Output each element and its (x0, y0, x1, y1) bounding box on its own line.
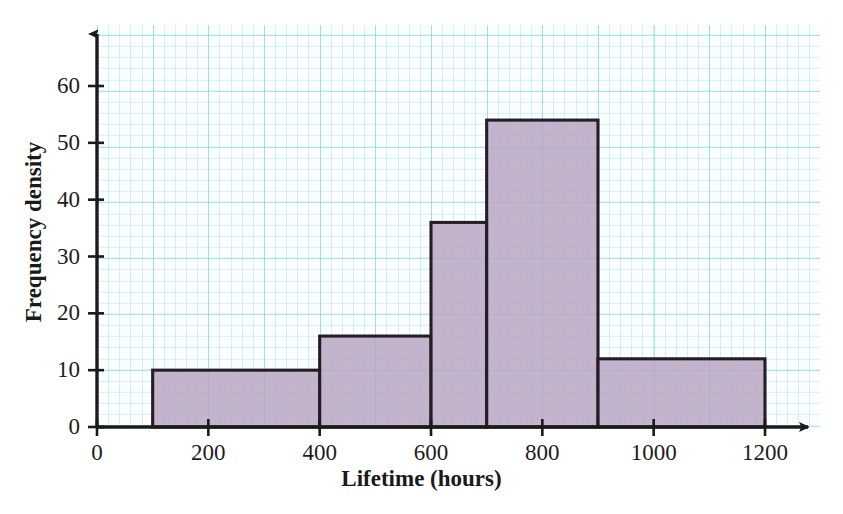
y-tick-label: 60 (22, 73, 80, 99)
y-axis-title: Frequency density (21, 112, 47, 352)
x-tick-label: 0 (91, 440, 103, 466)
x-tick-label: 600 (414, 440, 449, 466)
x-tick-label: 400 (302, 440, 337, 466)
histogram-bar (431, 222, 487, 427)
x-tick-label: 200 (191, 440, 226, 466)
histogram-bar (320, 336, 431, 427)
histogram-bars (153, 120, 765, 427)
x-tick-label: 1200 (742, 440, 788, 466)
histogram-bar (487, 120, 598, 427)
plot-area (0, 0, 843, 514)
x-tick-label: 1000 (631, 440, 677, 466)
histogram-figure: 0102030405060 020040060080010001200 Freq… (0, 0, 843, 514)
histogram-bar (598, 359, 765, 427)
histogram-bar (153, 370, 320, 427)
y-tick-label: 10 (22, 357, 80, 383)
x-tick-label: 800 (525, 440, 560, 466)
x-axis-title: Lifetime (hours) (0, 466, 843, 492)
y-tick-label: 0 (22, 414, 80, 440)
